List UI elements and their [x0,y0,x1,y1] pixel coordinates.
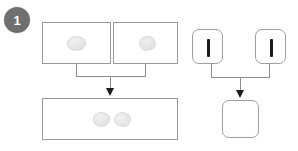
left-target-panel [42,98,178,140]
blob-shape [114,112,131,127]
connector-stem-right [145,64,146,76]
step-number-label: 1 [13,14,20,27]
blob-shape [93,112,110,127]
left-source-panel-2 [113,22,178,64]
connector-join-bar [76,76,146,77]
arrow-down-icon [106,88,114,96]
connector-join-bar [211,77,270,78]
vertical-bar-mark [207,39,210,57]
connector-center-stem [240,77,241,91]
arrow-down-icon [236,90,244,98]
blob-shape [67,36,86,51]
connector-stem-right [269,64,270,77]
step-number-badge: 1 [4,7,30,33]
diagram-canvas: 1 [0,0,298,151]
right-source-panel-2 [255,29,286,64]
vertical-bar-mark [270,39,273,57]
connector-stem-left [211,64,212,77]
blob-shape [139,36,156,51]
left-source-panel-1 [42,22,111,64]
connector-center-stem [110,76,111,89]
right-target-panel [222,100,259,138]
connector-stem-left [76,64,77,76]
right-source-panel-1 [192,29,223,64]
